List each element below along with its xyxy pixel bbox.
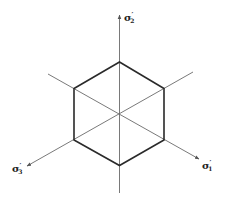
sigma1-label: σ′1: [202, 159, 212, 172]
sigma1-axis: [48, 74, 199, 159]
deviatoric-plane-diagram: [0, 0, 225, 203]
sigma3-axis: [27, 72, 193, 166]
sigma3-label: σ′3: [12, 162, 22, 175]
sigma2-label: σ′2: [124, 11, 134, 24]
